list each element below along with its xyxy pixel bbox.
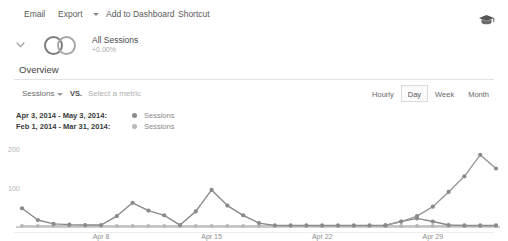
x-axis-tick-apr15: Apr 15 (196, 232, 228, 241)
legend-color-dot-primary (132, 113, 137, 118)
chevron-down-icon[interactable] (16, 40, 25, 49)
shortcut-button[interactable]: Shortcut (178, 8, 210, 20)
legend-color-dot-secondary (132, 124, 137, 129)
x-axis-tick-apr8: Apr 8 (85, 232, 117, 241)
x-axis-tick-apr29: Apr 29 (417, 232, 449, 241)
legend-date-range-primary: Apr 3, 2014 - May 3, 2014: (16, 110, 107, 121)
two-circles-icon[interactable] (44, 36, 88, 56)
chart-plot-area (0, 140, 508, 241)
bottom-divider (14, 232, 494, 233)
vs-label: VS. (70, 88, 82, 99)
legend-metric-secondary: Sessions (144, 121, 174, 132)
analytics-overview-page: Email Export Add to Dashboard Shortcut A… (0, 0, 508, 241)
chart-legend: Apr 3, 2014 - May 3, 2014: Sessions Feb … (0, 110, 508, 134)
granularity-hourly[interactable]: Hourly (365, 85, 401, 102)
segment-percent: +0.00% (92, 45, 116, 54)
segment-bar: All Sessions +0.00% (0, 32, 508, 58)
legend-metric-primary: Sessions (144, 110, 174, 121)
primary-metric-selector[interactable]: Sessions (22, 88, 54, 99)
report-toolbar: Email Export Add to Dashboard Shortcut (0, 8, 508, 26)
email-button[interactable]: Email (24, 8, 45, 20)
section-divider (14, 79, 494, 80)
export-button[interactable]: Export (58, 8, 83, 20)
segment-circle-right (57, 36, 76, 55)
granularity-day[interactable]: Day (401, 85, 428, 102)
x-axis-tick-apr22: Apr 22 (306, 232, 338, 241)
legend-date-range-secondary: Feb 1, 2014 - Mar 31, 2014: (16, 121, 110, 132)
page-title: Overview (19, 64, 59, 76)
secondary-metric-selector[interactable]: Select a metric (88, 88, 141, 99)
granularity-month[interactable]: Month (461, 85, 496, 102)
chevron-down-icon[interactable] (93, 13, 99, 16)
metric-selector-row: Sessions VS. Select a metric Hourly Day … (0, 84, 508, 104)
chevron-down-icon[interactable] (57, 93, 63, 96)
graduation-cap-icon[interactable] (478, 14, 495, 26)
add-to-dashboard-button[interactable]: Add to Dashboard (106, 8, 175, 20)
granularity-toggle-group: Hourly Day Week Month (365, 85, 496, 102)
granularity-week[interactable]: Week (428, 85, 461, 102)
sessions-line-chart[interactable]: 200 100 Apr 8 Apr 15 Apr 22 Apr 29 (0, 140, 508, 241)
